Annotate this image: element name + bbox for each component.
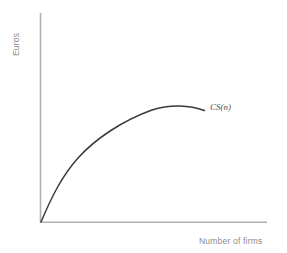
cs-curve-annotation: CS(n) [210, 102, 231, 112]
chart-figure: Euros Number of firms CS(n) [0, 0, 287, 253]
cs-curve [41, 106, 205, 222]
chart-plot-area [0, 0, 287, 253]
y-axis-label: Euros [11, 33, 21, 56]
x-axis-label: Number of firms [199, 236, 262, 246]
